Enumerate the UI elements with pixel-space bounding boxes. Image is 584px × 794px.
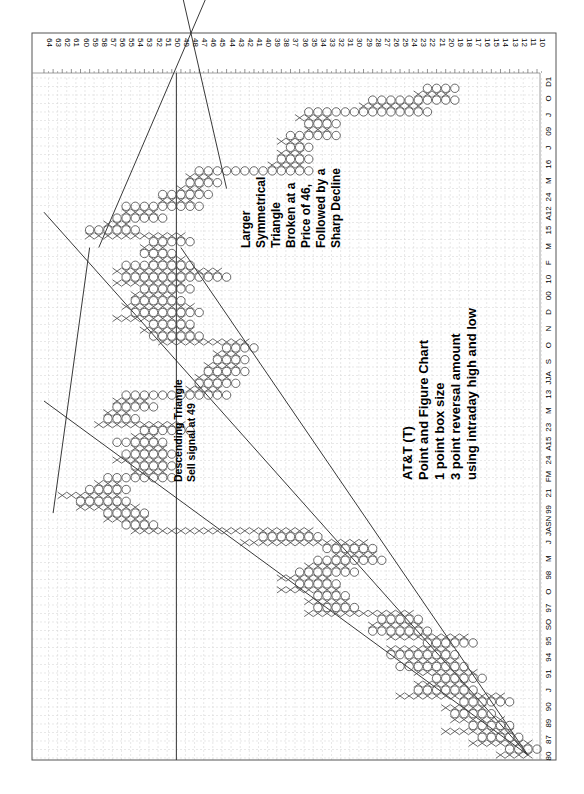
trendline <box>53 248 90 513</box>
time-tick-label: D1 <box>544 76 553 87</box>
annotation-line: Descending Triangle <box>172 379 184 482</box>
annotation-line: Triangle <box>269 202 283 248</box>
chart-subtitle-3: 3 point reversal amount <box>448 333 463 480</box>
time-tick-label: 95 <box>544 636 553 645</box>
price-tick-label: 60 <box>82 38 91 47</box>
time-tick-label: O <box>544 588 553 594</box>
symmetrical-triangle-annotation: Larger Symmetrical Triangle Broken at a … <box>239 168 343 248</box>
price-tick-label: 17 <box>474 38 483 47</box>
time-tick-label: 09 <box>544 126 553 135</box>
price-tick-label: 25 <box>401 38 410 47</box>
price-tick-label: 13 <box>511 38 520 47</box>
time-tick-label: S <box>544 359 553 364</box>
time-tick-label: 97 <box>544 603 553 612</box>
time-tick-label: 13 <box>544 389 553 398</box>
time-tick-label: D <box>544 309 553 315</box>
price-tick-label: 51 <box>164 38 173 47</box>
price-tick-label: 62 <box>63 38 72 47</box>
price-tick-label: 24 <box>410 38 419 47</box>
descending-triangle-annotation: Descending Triangle Sell signal at 49 <box>172 379 197 482</box>
price-tick-label: 45 <box>218 38 227 47</box>
price-tick-label: 58 <box>100 38 109 47</box>
price-tick-label: 34 <box>319 38 328 47</box>
title-annotation: AT&T (T) Point and Figure Chart 1 point … <box>400 307 479 480</box>
time-tick-label: 98 <box>544 570 553 579</box>
time-tick-label: 91 <box>544 669 553 678</box>
price-tick-label: 40 <box>264 38 273 47</box>
price-tick-label: 18 <box>465 38 474 47</box>
annotation-line: Sharp Decline <box>329 168 343 248</box>
annotation-line: Broken at a <box>284 182 298 248</box>
price-tick-label: 23 <box>419 38 428 47</box>
time-tick-label: JASN <box>544 515 553 536</box>
price-tick-label: 22 <box>428 38 437 47</box>
price-tick-label: 54 <box>136 38 145 47</box>
time-tick-label: 24 <box>544 455 553 464</box>
annotation-line: Larger <box>239 210 253 248</box>
chart-subtitle-1: Point and Figure Chart <box>416 339 431 480</box>
price-tick-label: 35 <box>310 38 319 47</box>
price-tick-label: 43 <box>237 38 246 47</box>
time-tick-label: 24 <box>544 192 553 201</box>
price-tick-label: 20 <box>447 38 456 47</box>
price-tick-label: 12 <box>520 38 529 47</box>
time-axis-labels: 80878990J919495SO97O98MJJASN9921FM24A152… <box>544 76 553 760</box>
price-tick-label: 11 <box>529 38 538 47</box>
price-tick-label: 31 <box>346 38 355 47</box>
price-tick-label: 30 <box>355 38 364 47</box>
price-tick-label: 29 <box>365 38 374 47</box>
time-tick-label: N <box>544 325 553 331</box>
price-tick-label: 16 <box>483 38 492 47</box>
time-tick-label: A15 <box>544 436 553 451</box>
time-tick-label: JJA <box>544 371 553 385</box>
time-tick-label: O <box>544 342 553 348</box>
time-tick-label: SO <box>544 619 553 631</box>
price-tick-label: 44 <box>228 38 237 47</box>
time-tick-label: 16 <box>544 159 553 168</box>
price-tick-label: 55 <box>127 38 136 47</box>
time-tick-label: M <box>544 243 553 250</box>
chart-title: AT&T (T) <box>400 426 415 480</box>
point-and-figure-chart: 6463626160595857565554535251504948474645… <box>0 0 584 794</box>
price-tick-label: 63 <box>54 38 63 47</box>
time-tick-label: 23 <box>544 422 553 431</box>
annotation-line: Sell signal at 49 <box>185 403 197 482</box>
time-tick-label: 10 <box>544 274 553 283</box>
price-tick-label: 47 <box>200 38 209 47</box>
price-tick-label: 26 <box>392 38 401 47</box>
time-tick-label: M <box>544 555 553 562</box>
price-tick-label: 36 <box>301 38 310 47</box>
chart-subtitle-2: 1 point box size <box>432 382 447 480</box>
price-tick-label: 15 <box>492 38 501 47</box>
time-tick-label: 87 <box>544 735 553 744</box>
time-tick-label: J <box>544 540 553 544</box>
time-tick-label: O <box>544 95 553 101</box>
price-tick-label: 59 <box>91 38 100 47</box>
price-tick-label: 52 <box>155 38 164 47</box>
price-tick-label: 32 <box>337 38 346 47</box>
time-tick-label: 90 <box>544 702 553 711</box>
time-tick-label: 21 <box>544 488 553 497</box>
price-tick-label: 10 <box>538 38 547 47</box>
price-tick-label: 37 <box>291 38 300 47</box>
price-tick-label: 46 <box>209 38 218 47</box>
time-tick-label: J <box>544 113 553 117</box>
price-tick-label: 19 <box>456 38 465 47</box>
time-tick-label: F <box>544 260 553 265</box>
price-tick-label: 64 <box>45 38 54 47</box>
price-tick-label: 53 <box>145 38 154 47</box>
time-tick-label: FM <box>544 470 553 482</box>
price-tick-label: 33 <box>328 38 337 47</box>
time-tick-label: 15 <box>544 225 553 234</box>
chart-subtitle-4: using intraday high and low <box>464 307 479 480</box>
time-tick-label: J <box>544 146 553 150</box>
time-tick-label: 00 <box>544 291 553 300</box>
annotation-line: Price of 46, <box>299 184 313 248</box>
time-tick-label: 99 <box>544 504 553 513</box>
price-tick-label: 41 <box>255 38 264 47</box>
price-tick-label: 28 <box>374 38 383 47</box>
time-tick-label: 89 <box>544 718 553 727</box>
annotation-line: Followed by a <box>314 168 328 248</box>
time-tick-label: 80 <box>544 751 553 760</box>
price-axis-labels: 6463626160595857565554535251504948474645… <box>45 38 547 47</box>
